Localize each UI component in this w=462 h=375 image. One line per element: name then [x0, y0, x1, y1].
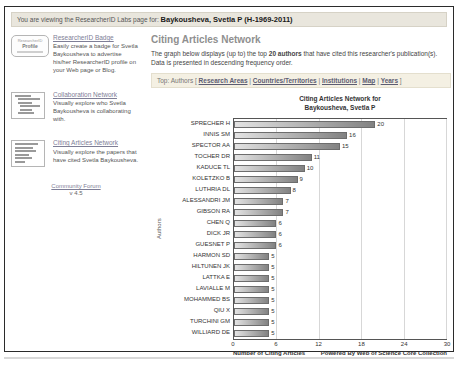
citing-count-bar[interactable]	[234, 286, 269, 293]
page-frame: You are viewing the ResearcherID Labs pa…	[4, 6, 454, 352]
researcherid-badge-card: ResearcherID Profile ResearcherID Badge …	[11, 34, 141, 75]
bar-row: 5	[234, 295, 446, 306]
bar-row: 5	[234, 317, 446, 328]
author-label: HARMON SD	[163, 250, 233, 261]
bar-row: 5	[234, 273, 446, 284]
community-forum-link[interactable]: Community Forum	[11, 183, 141, 189]
citing-count-bar[interactable]	[234, 209, 283, 216]
researcher-name: Baykousheva, Svetla P (H-1969-2011)	[161, 15, 293, 24]
x-ticks: 0612182430	[233, 340, 447, 349]
y-axis-label: Authors	[155, 118, 163, 340]
author-label: LUTHRIA DL	[163, 184, 233, 195]
nav-link-countries[interactable]: Countries/Territories	[253, 77, 317, 84]
x-tick-label: 30	[444, 341, 451, 347]
page-title: Citing Articles Network	[151, 34, 451, 45]
author-label: HILTUNEN JK	[163, 261, 233, 272]
bar-value-label: 5	[271, 308, 274, 314]
nav-current-authors: Authors	[171, 77, 193, 84]
bar-row: 11	[234, 152, 446, 163]
nav-link-research-areas[interactable]: Research Areas	[199, 77, 248, 84]
citing-count-bar[interactable]	[234, 154, 312, 161]
author-label: GIBSON RA	[163, 206, 233, 217]
citing-count-bar[interactable]	[234, 319, 269, 326]
author-label: ALESSANDRI JM	[163, 195, 233, 206]
author-label: SPECTOR AA	[163, 140, 233, 151]
bar-row: 9	[234, 174, 446, 185]
citing-count-bar[interactable]	[234, 264, 269, 271]
citing-count-bar[interactable]	[234, 330, 269, 337]
bar-value-label: 7	[285, 209, 288, 215]
citing-count-bar[interactable]	[234, 198, 283, 205]
plot-area: 2016151110987766655555555	[233, 118, 447, 340]
bar-row: 6	[234, 240, 446, 251]
citing-articles-icon[interactable]	[11, 140, 45, 167]
powered-by-label: Powered By Web of Science Core Collectio…	[321, 350, 447, 356]
viewing-banner: You are viewing the ResearcherID Labs pa…	[11, 12, 447, 27]
main-content: Citing Articles Network The graph below …	[141, 34, 451, 356]
citing-articles-link[interactable]: Citing Articles Network	[53, 139, 141, 147]
x-tick-label: 0	[231, 341, 234, 347]
bar-row: 6	[234, 218, 446, 229]
bar-row: 5	[234, 306, 446, 317]
researcherid-badge-icon[interactable]: ResearcherID Profile	[11, 35, 49, 57]
nav-link-years[interactable]: Years	[381, 77, 398, 84]
author-label: MOHAMMED BS	[163, 294, 233, 305]
gridline	[446, 119, 447, 339]
citing-count-bar[interactable]	[234, 143, 340, 150]
citing-articles-desc: Visually explore the papers that have ci…	[53, 149, 138, 163]
citing-count-bar[interactable]	[234, 231, 276, 238]
researcherid-badge-desc: Easily create a badge for Svetla Baykous…	[53, 43, 138, 72]
bar-value-label: 5	[271, 330, 274, 336]
citing-count-bar[interactable]	[234, 165, 305, 172]
bar-value-label: 5	[271, 253, 274, 259]
bar-row: 5	[234, 251, 446, 262]
citing-count-bar[interactable]	[234, 308, 269, 315]
labels-col: SPRECHER HINNIS SMSPECTOR AATOCHER DRKAD…	[163, 118, 233, 340]
bar-value-label: 5	[271, 286, 274, 292]
bar-row: 15	[234, 141, 446, 152]
citing-count-bar[interactable]	[234, 176, 298, 183]
citing-count-bar[interactable]	[234, 253, 269, 260]
bar-value-label: 9	[300, 176, 303, 182]
sidebar: ResearcherID Profile ResearcherID Badge …	[11, 34, 141, 356]
author-label: WILLIARD DE	[163, 327, 233, 338]
citing-articles-card: Citing Articles Network Visually explore…	[11, 139, 141, 167]
version-label: v 4.5	[11, 190, 141, 196]
citing-count-bar[interactable]	[234, 187, 291, 194]
bar-value-label: 5	[271, 275, 274, 281]
nav-link-institutions[interactable]: Institutions	[322, 77, 357, 84]
author-label: LATTKA E	[163, 272, 233, 283]
nav-link-map[interactable]: Map	[362, 77, 375, 84]
collaboration-network-icon[interactable]	[11, 92, 45, 119]
citing-count-bar[interactable]	[234, 275, 269, 282]
bar-value-label: 11	[314, 154, 320, 160]
author-label: CHEN Q	[163, 217, 233, 228]
citing-count-bar[interactable]	[234, 220, 276, 227]
author-label: TURCHINI GM	[163, 316, 233, 327]
citing-count-bar[interactable]	[234, 242, 276, 249]
bar-row: 5	[234, 284, 446, 295]
window-bottom-edge	[4, 357, 454, 359]
bar-value-label: 15	[342, 143, 349, 149]
author-label: SPRECHER H	[163, 118, 233, 129]
bar-value-label: 6	[278, 231, 281, 237]
collaboration-network-card: Collaboration Network Visually explore w…	[11, 91, 141, 124]
bar-row: 16	[234, 130, 446, 141]
bar-row: 5	[234, 262, 446, 273]
bar-row: 7	[234, 196, 446, 207]
bar-value-label: 16	[349, 132, 356, 138]
bar-row: 8	[234, 185, 446, 196]
x-tick-label: 18	[358, 341, 365, 347]
bar-value-label: 10	[307, 165, 314, 171]
citing-articles-chart: Citing Articles Network for Baykousheva,…	[155, 95, 447, 356]
citing-count-bar[interactable]	[234, 121, 375, 128]
citing-count-bar[interactable]	[234, 297, 269, 304]
collaboration-network-link[interactable]: Collaboration Network	[53, 91, 141, 99]
citing-count-bar[interactable]	[234, 132, 347, 139]
researcherid-badge-link[interactable]: ResearcherID Badge	[53, 34, 141, 42]
x-tick-label: 24	[401, 341, 408, 347]
top-authors-emphasis: 20 authors	[269, 50, 302, 57]
bar-value-label: 20	[377, 121, 384, 127]
author-label: KADUCE TL	[163, 162, 233, 173]
bar-value-label: 5	[271, 319, 274, 325]
